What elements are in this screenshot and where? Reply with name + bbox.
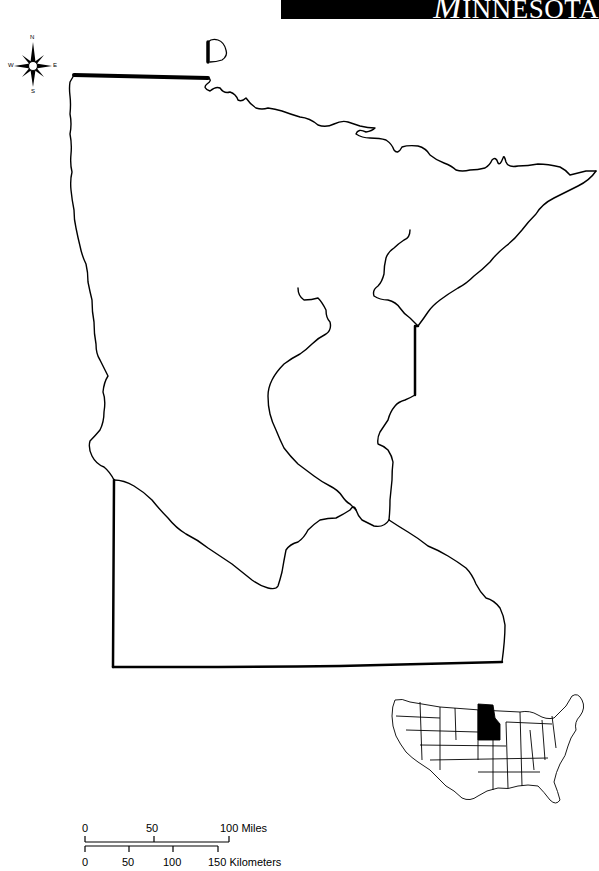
red-river-border bbox=[70, 75, 115, 480]
mississippi-river-border bbox=[389, 520, 505, 662]
iowa-border bbox=[113, 662, 502, 667]
minnesota-river bbox=[114, 480, 389, 589]
scale-miles-0: 0 bbox=[82, 822, 88, 834]
scale-km-100: 100 bbox=[163, 856, 181, 868]
st-louis-river bbox=[374, 230, 419, 326]
scale-bar bbox=[85, 836, 229, 852]
northern-border-49th-parallel bbox=[74, 75, 208, 78]
minnesota-outline bbox=[70, 39, 597, 667]
map-canvas bbox=[0, 0, 599, 871]
scale-miles-100: 100 Miles bbox=[220, 822, 267, 834]
st-croix-river-border bbox=[378, 395, 415, 520]
rainy-river-border bbox=[205, 78, 596, 175]
scale-km-50: 50 bbox=[122, 856, 134, 868]
scale-miles-50: 50 bbox=[146, 822, 158, 834]
minnesota-highlight bbox=[478, 704, 500, 740]
south-dakota-border bbox=[113, 480, 114, 667]
state-lines bbox=[396, 702, 556, 790]
wisconsin-border-straight bbox=[415, 326, 418, 395]
us-locator-map bbox=[392, 695, 584, 803]
scale-km-0: 0 bbox=[82, 856, 88, 868]
compass-star-icon bbox=[14, 42, 52, 87]
northwest-angle-shore bbox=[208, 39, 227, 62]
scale-km-150: 150 Kilometers bbox=[208, 856, 281, 868]
lake-superior-shore bbox=[418, 171, 596, 326]
mississippi-river bbox=[268, 288, 356, 510]
